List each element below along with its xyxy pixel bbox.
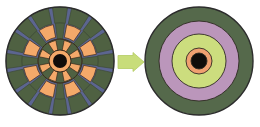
left-diagram-source-pattern <box>6 7 114 115</box>
left-core-black <box>53 54 67 68</box>
left-outer-green-wedge-6 <box>6 53 22 68</box>
figure-container: Radial sector pattern transformed into c… <box>0 0 260 127</box>
right-diagram-result-pattern <box>145 7 253 115</box>
left-petal-green-fill-2 <box>82 56 98 65</box>
left-outer-green-wedge-4 <box>52 99 67 115</box>
left-petal-green-fill-4 <box>55 83 64 99</box>
left-petal-green-fill-6 <box>22 56 38 65</box>
transformation-diagram <box>0 0 260 127</box>
left-petal-green-fill-0 <box>55 23 64 39</box>
left-outer-green-wedge-2 <box>98 53 114 68</box>
ring-core-black <box>191 53 207 69</box>
left-outer-green-wedge-0 <box>52 7 67 23</box>
